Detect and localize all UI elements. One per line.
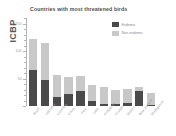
- bar-mexico[interactable]: [123, 89, 131, 106]
- y-axis-tick-minor: [24, 73, 27, 74]
- x-axis-labels: BrazilIndonesiaColombiaChinaPeruIndiaPhi…: [29, 107, 155, 111]
- y-axis-tick-label: 50: [18, 77, 22, 81]
- bar-segment-non-endemic: [64, 77, 72, 94]
- bar-peru[interactable]: [76, 76, 84, 106]
- bar-segment-non-endemic: [88, 85, 96, 100]
- bar-philippines[interactable]: [100, 87, 108, 106]
- x-axis-tick-label: Ecuador: [115, 107, 123, 116]
- legend-label: Endemic: [122, 23, 136, 27]
- bar-segment-endemic: [100, 104, 108, 106]
- bar-segment-endemic: [88, 101, 96, 107]
- bar-segment-endemic: [41, 80, 49, 106]
- x-axis-tick-label: New Zealand: [138, 107, 146, 116]
- y-axis-tick-minor: [24, 68, 27, 69]
- x-axis-tick-label: India: [91, 107, 99, 116]
- y-axis-tick-major: 100: [23, 51, 27, 52]
- x-axis-tick-label: Indonesia: [44, 107, 52, 116]
- y-axis-tick-minor: [24, 29, 27, 30]
- bar-segment-non-endemic: [53, 75, 61, 96]
- x-axis-tick-label: Mexico: [126, 107, 134, 116]
- bar-segment-non-endemic: [41, 43, 49, 80]
- bar-segment-endemic: [29, 70, 37, 106]
- chart-container: Countries with most threatened birds ICB…: [0, 0, 176, 136]
- y-axis-tick-minor: [24, 90, 27, 91]
- bar-segment-endemic: [135, 91, 143, 106]
- legend-item[interactable]: Endemic: [112, 22, 143, 27]
- y-axis-tick-minor: [24, 95, 27, 96]
- y-axis-tick-minor: [24, 84, 27, 85]
- x-axis-tick-label: Brazil: [32, 107, 40, 116]
- x-axis-tick-label: Peru: [79, 107, 87, 116]
- bar-segment-non-endemic: [123, 89, 131, 103]
- y-axis-tick-minor: [24, 35, 27, 36]
- legend-swatch: [112, 22, 119, 27]
- legend-swatch: [112, 31, 119, 36]
- y-axis-label: ICBP: [8, 11, 18, 51]
- y-axis-tick-label: 150: [16, 22, 22, 26]
- bar-china[interactable]: [64, 77, 72, 106]
- bar-segment-non-endemic: [29, 39, 37, 70]
- y-axis-line: [26, 18, 27, 106]
- bar-colombia[interactable]: [53, 75, 61, 106]
- y-axis-tick-label: 100: [16, 49, 22, 53]
- bar-segment-endemic: [76, 91, 84, 106]
- legend-label: Non-endemic: [122, 31, 143, 35]
- bar-segment-non-endemic: [100, 87, 108, 104]
- y-axis-tick-major: 50: [23, 79, 27, 80]
- legend-item[interactable]: Non-endemic: [112, 31, 143, 36]
- bar-brazil[interactable]: [29, 39, 37, 106]
- plot-area: 50100150: [26, 18, 166, 106]
- y-axis-tick-minor: [24, 18, 27, 19]
- x-axis-tick-label: China: [68, 107, 76, 116]
- y-axis-tick-minor: [24, 40, 27, 41]
- y-axis-tick-minor: [24, 101, 27, 102]
- bar-segment-non-endemic: [76, 76, 84, 91]
- chart-title: Countries with most threatened birds: [30, 6, 127, 12]
- x-axis-tick-label: Colombia: [56, 107, 64, 116]
- bar-new-zealand[interactable]: [135, 87, 143, 106]
- chart-legend: EndemicNon-endemic: [112, 22, 143, 36]
- x-axis-tick-label: Philippines: [103, 107, 111, 116]
- y-axis-tick-minor: [24, 46, 27, 47]
- y-axis-tick-major: 150: [23, 24, 27, 25]
- bar-indonesia[interactable]: [41, 43, 49, 106]
- y-axis-tick-minor: [24, 62, 27, 63]
- y-axis-tick-minor: [24, 57, 27, 58]
- y-axis-tick-major: [23, 106, 27, 107]
- bar-india[interactable]: [88, 85, 96, 106]
- x-axis-tick-label: Madagascar: [150, 107, 158, 116]
